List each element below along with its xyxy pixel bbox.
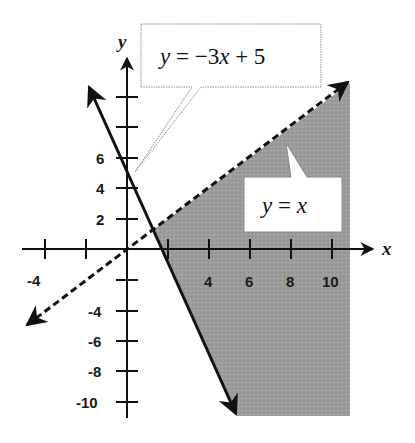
y-tick-label-4: 4 bbox=[96, 180, 105, 197]
y-tick-label-neg6: -6 bbox=[88, 333, 101, 350]
callout-solid-rest: + 5 bbox=[229, 44, 265, 69]
inequality-graph: -4 4 6 8 10 6 4 2 -4 -6 -8 -10 y x y = −… bbox=[0, 0, 415, 443]
y-tick-label-2: 2 bbox=[96, 211, 104, 228]
x-tick-label-4: 4 bbox=[204, 273, 213, 290]
y-tick-label-6: 6 bbox=[96, 150, 104, 167]
callout-solid-x: x bbox=[218, 44, 230, 69]
y-tick-label-neg4: -4 bbox=[88, 303, 102, 320]
callout-dashed-eq: = bbox=[272, 193, 296, 218]
x-tick-label-8: 8 bbox=[286, 273, 294, 290]
svg-text:y = −3x + 5: y = −3x + 5 bbox=[158, 44, 265, 69]
callout-solid-eq: = −3 bbox=[170, 44, 219, 69]
y-tick-label-neg8: -8 bbox=[88, 363, 101, 380]
x-tick-label-10: 10 bbox=[322, 273, 339, 290]
svg-text:y = x: y = x bbox=[260, 193, 308, 218]
callout-solid-y: y bbox=[158, 44, 171, 69]
callout-dashed-x: x bbox=[296, 193, 308, 218]
x-tick-label-6: 6 bbox=[245, 273, 253, 290]
x-tick-label-neg4: -4 bbox=[27, 272, 41, 289]
callout-dashed-y: y bbox=[260, 193, 273, 218]
y-axis-label: y bbox=[116, 31, 127, 52]
y-tick-label-neg10: -10 bbox=[76, 394, 98, 411]
x-axis-label: x bbox=[381, 238, 392, 259]
